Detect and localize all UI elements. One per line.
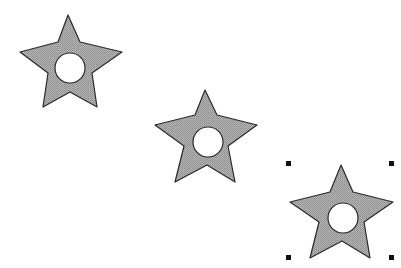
star-3-shape[interactable]	[290, 165, 393, 258]
star-hole	[55, 53, 85, 83]
star-1-shape[interactable]	[20, 15, 122, 107]
star-hole	[328, 203, 358, 233]
shapes-layer	[20, 15, 393, 258]
resize-handle-0[interactable]	[286, 161, 291, 166]
star-hole	[193, 127, 223, 157]
resize-handle-1[interactable]	[389, 161, 394, 166]
drawing-canvas[interactable]	[0, 0, 401, 268]
resize-handle-3[interactable]	[389, 255, 394, 260]
star-2-shape[interactable]	[155, 90, 257, 182]
resize-handle-2[interactable]	[286, 255, 291, 260]
